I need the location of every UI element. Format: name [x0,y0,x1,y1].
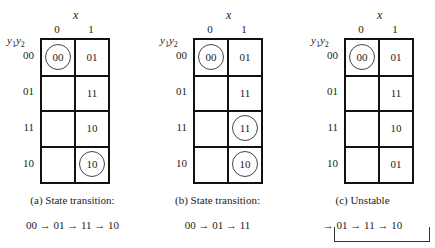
row-header-label: y1y2 [160,34,178,49]
kmap-cell [345,146,379,182]
transition-sequence: 00 → 01 → 11 [145,219,290,231]
kmap-cell [41,75,75,111]
kmap-cell [194,75,228,111]
column-label: 0 [344,23,378,35]
panel-caption: (c) Unstable [290,194,435,206]
kmap-panel-a: x01y1y2000111100001111010(a) State trans… [0,0,145,248]
kmap-cell: 11 [228,75,262,111]
row-label: 01 [167,85,187,97]
kmap-cell: 11 [379,75,413,111]
kmap-cell: 10 [379,110,413,146]
cell-value: 00 [206,51,217,63]
cell-value: 01 [87,51,98,63]
cell-value: 01 [391,158,402,170]
kmap-cell: 11 [228,110,262,146]
row-label: 00 [318,49,338,61]
transition-sequence: 00 → 01 → 11 → 10 [0,219,145,231]
row-label: 11 [14,121,34,133]
row-label: 10 [318,157,338,169]
x-axis-label: x [377,8,382,23]
row-label: 00 [14,49,34,61]
cell-value: 10 [87,122,98,134]
kmap-cell: 00 [41,39,75,75]
row-header-label: y1y2 [7,34,25,49]
cell-value: 10 [87,158,98,170]
cell-value: 11 [87,87,98,99]
kmap-cell: 10 [75,146,109,182]
kmap-cell: 01 [379,39,413,75]
kmap-cell [345,110,379,146]
cell-value: 00 [53,51,64,63]
row-header-label: y1y2 [311,34,329,49]
stable-state-circle: 00 [349,44,375,70]
kmap-cell: 01 [228,39,262,75]
stable-state-circle: 10 [79,151,105,177]
kmap-cell: 10 [75,110,109,146]
kmap-cell: 10 [228,146,262,182]
row-label: 10 [167,157,187,169]
kmap-grid: 0001111110 [193,38,263,184]
kmap-cell [41,110,75,146]
panel-caption: (a) State transition: [0,194,145,206]
row-label: 11 [167,121,187,133]
kmap-cell: 00 [194,39,228,75]
kmap-cell: 01 [75,39,109,75]
row-label: 00 [167,49,187,61]
cell-value: 11 [391,87,402,99]
row-label: 01 [14,85,34,97]
loop-back-arrow [334,227,430,242]
cell-value: 11 [240,87,251,99]
kmap-grid: 0001111001 [344,38,414,184]
row-label: 10 [14,157,34,169]
kmap-cell: 01 [379,146,413,182]
kmap-panel-c: x01y1y2000111100001111001(c) Unstable→ 0… [290,0,435,248]
kmap-panel-b: x01y1y2000111100001111110(b) State trans… [145,0,290,248]
x-axis-label: x [226,8,231,23]
column-label: 1 [74,23,108,35]
x-axis-label: x [73,8,78,23]
kmap-cell [41,146,75,182]
column-label: 0 [193,23,227,35]
kmap-cell [194,110,228,146]
stable-state-circle: 10 [232,151,258,177]
cell-value: 10 [240,158,251,170]
cell-value: 01 [391,51,402,63]
stable-state-circle: 00 [198,44,224,70]
stable-state-circle: 11 [232,115,258,141]
cell-value: 10 [391,122,402,134]
cell-value: 00 [357,51,368,63]
kmap-cell [345,75,379,111]
column-label: 0 [40,23,74,35]
stable-state-circle: 00 [45,44,71,70]
kmap-cell: 00 [345,39,379,75]
kmap-cell: 11 [75,75,109,111]
row-label: 01 [318,85,338,97]
kmap-cell [194,146,228,182]
column-label: 1 [227,23,261,35]
row-label: 11 [318,121,338,133]
column-label: 1 [378,23,412,35]
cell-value: 01 [240,51,251,63]
kmap-grid: 0001111010 [40,38,110,184]
panel-caption: (b) State transition: [145,194,290,206]
cell-value: 11 [240,122,251,134]
